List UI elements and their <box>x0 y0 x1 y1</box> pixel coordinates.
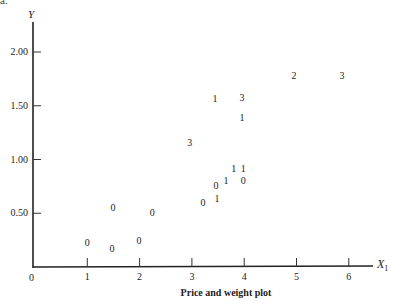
x-tick-label: 4 <box>237 271 251 282</box>
axes-lines <box>0 0 394 301</box>
data-point: 1 <box>212 194 222 204</box>
x-tick-label: 3 <box>185 271 199 282</box>
data-point: 0 <box>198 198 208 208</box>
x-tick-label: 5 <box>290 271 304 282</box>
y-axis-label: Y <box>28 8 34 20</box>
y-tick-label: 1.50 <box>0 100 28 111</box>
y-tick-label: 0.50 <box>0 207 28 218</box>
x-axis-line <box>33 266 373 267</box>
y-tick-label: 1.00 <box>0 154 28 165</box>
data-point: 2 <box>289 71 299 81</box>
data-point: 1 <box>210 94 220 104</box>
data-point: 0 <box>108 203 118 213</box>
data-point: 0 <box>82 238 92 248</box>
x-tick-label: 6 <box>342 271 356 282</box>
data-point: 0 <box>147 208 157 218</box>
x-tick-label: 2 <box>133 271 147 282</box>
data-point: 0 <box>211 181 221 191</box>
data-point: 0 <box>134 236 144 246</box>
x-axis-label-subscript: 1 <box>384 264 388 273</box>
y-tick-label: 2.00 <box>0 46 28 57</box>
data-point: 0 <box>238 176 248 186</box>
data-point: 1 <box>238 164 248 174</box>
x-tick-label: 1 <box>80 271 94 282</box>
origin-label: 0 <box>29 272 34 283</box>
figure-corner-label: a. <box>0 0 8 6</box>
data-point: 3 <box>337 71 347 81</box>
data-point: 0 <box>107 244 117 254</box>
data-point: 3 <box>237 93 247 103</box>
chart-caption: Price and weight plot <box>126 287 326 298</box>
x-axis-label: X1 <box>377 257 388 273</box>
y-ticks <box>33 52 41 213</box>
data-point: 1 <box>221 176 231 186</box>
data-point: 1 <box>237 113 247 123</box>
data-point: 3 <box>185 138 195 148</box>
